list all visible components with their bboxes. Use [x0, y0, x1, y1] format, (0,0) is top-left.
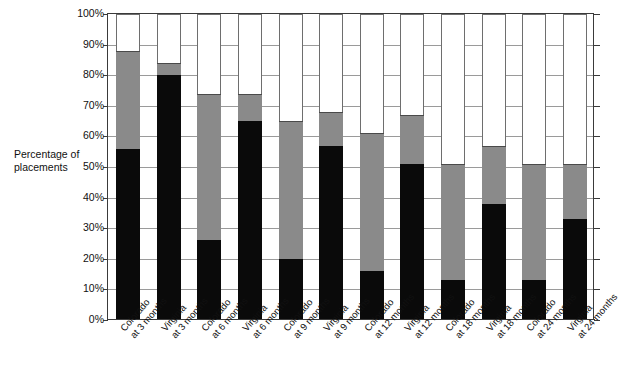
stacked-bar-chart: Percentage of placements 0%10%20%30%40%5…	[0, 0, 615, 388]
x-axis-tick-labels: Coloradoat 3 monthsVirginiaat 3 monthsCo…	[0, 0, 615, 388]
